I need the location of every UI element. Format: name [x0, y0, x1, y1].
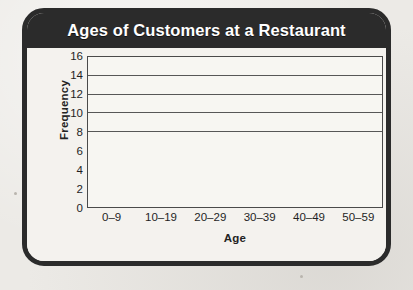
y-tick-label: 16	[70, 50, 83, 62]
x-tick-label: 0–9	[87, 211, 136, 223]
scan-speck	[300, 275, 303, 278]
x-tick-label: 20–29	[186, 211, 235, 223]
y-tick-label: 4	[77, 164, 83, 176]
scan-speck	[14, 192, 17, 195]
y-tick-label: 2	[77, 183, 83, 195]
chart-plot-container: Frequency 0246810121416 0–910–1920–2930–…	[27, 48, 386, 261]
y-tick-label: 6	[77, 145, 83, 157]
y-tick-label: 14	[70, 69, 83, 81]
chart-card: Ages of Customers at a Restaurant Freque…	[22, 8, 391, 266]
x-tick-label: 10–19	[136, 211, 185, 223]
y-axis-tick-labels: 0246810121416	[57, 56, 83, 208]
x-axis-title: Age	[87, 232, 383, 244]
x-axis-tick-labels: 0–910–1920–2930–3940–4950–59	[87, 211, 383, 223]
x-tick-label: 50–59	[334, 211, 383, 223]
y-tick-label: 0	[77, 202, 83, 214]
chart-title-bar: Ages of Customers at a Restaurant	[26, 12, 387, 48]
y-tick-label: 8	[77, 126, 83, 138]
y-tick-label: 12	[70, 88, 83, 100]
plot-area	[87, 56, 383, 208]
y-tick-label: 10	[70, 107, 83, 119]
bar-series	[88, 57, 382, 207]
chart-title: Ages of Customers at a Restaurant	[67, 21, 345, 40]
x-tick-label: 40–49	[284, 211, 333, 223]
x-tick-label: 30–39	[235, 211, 284, 223]
